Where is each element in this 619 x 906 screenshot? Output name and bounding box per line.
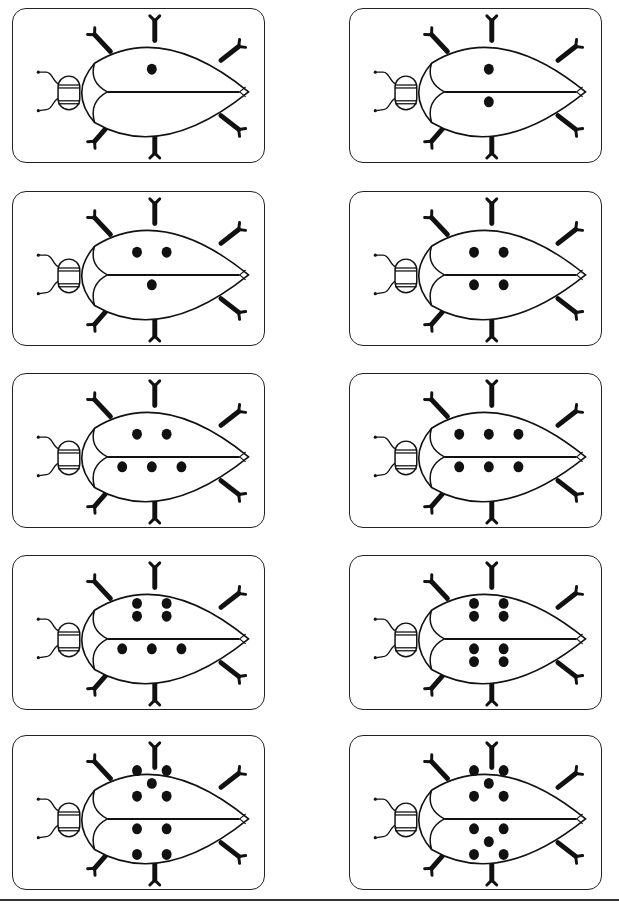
spot <box>162 429 172 440</box>
spot <box>484 778 494 789</box>
ladybug-icon <box>13 556 264 709</box>
spot <box>484 836 494 847</box>
bottom-divider <box>0 899 619 901</box>
ladybug-card-3 <box>12 191 265 346</box>
ladybug-icon <box>350 556 601 709</box>
spot <box>469 598 479 609</box>
spot <box>162 765 172 776</box>
spot <box>499 598 509 609</box>
spot <box>469 849 479 860</box>
spot <box>499 247 509 258</box>
spot <box>147 643 157 654</box>
spot <box>469 791 479 802</box>
ladybug-icon <box>350 9 601 162</box>
ladybug-icon <box>13 9 264 162</box>
spot <box>132 611 142 622</box>
ladybug-card-8 <box>349 555 602 710</box>
spot <box>162 247 172 258</box>
spot <box>454 461 464 472</box>
spot <box>162 849 172 860</box>
spot <box>514 429 524 440</box>
spot <box>499 611 509 622</box>
ladybug-card-5 <box>12 373 265 528</box>
spot <box>147 461 157 472</box>
ladybug-icon <box>350 192 601 345</box>
spot <box>499 656 509 667</box>
spot <box>147 64 157 75</box>
spot <box>162 791 172 802</box>
ladybug-icon <box>350 736 601 889</box>
spot <box>162 823 172 834</box>
ladybug-icon <box>13 736 264 889</box>
ladybug-icon <box>350 374 601 527</box>
spot <box>484 429 494 440</box>
spot <box>132 247 142 258</box>
spot <box>162 611 172 622</box>
ladybug-card-1 <box>12 8 265 163</box>
ladybug-card-9 <box>12 735 265 890</box>
spot <box>147 279 157 290</box>
spot <box>469 279 479 290</box>
spot <box>132 598 142 609</box>
spot <box>147 778 157 789</box>
spot <box>132 823 142 834</box>
ladybug-card-4 <box>349 191 602 346</box>
spot <box>469 765 479 776</box>
spot <box>177 461 187 472</box>
spot <box>177 643 187 654</box>
ladybug-icon <box>13 192 264 345</box>
spot <box>132 765 142 776</box>
spot <box>132 429 142 440</box>
spot <box>499 849 509 860</box>
spot <box>484 461 494 472</box>
ladybug-card-6 <box>349 373 602 528</box>
spot <box>514 461 524 472</box>
spot <box>469 823 479 834</box>
spot <box>484 64 494 75</box>
spot <box>162 598 172 609</box>
spot <box>132 791 142 802</box>
spot <box>499 765 509 776</box>
spot <box>469 611 479 622</box>
spot <box>499 279 509 290</box>
spot <box>469 247 479 258</box>
spot <box>132 849 142 860</box>
ladybug-card-10 <box>349 735 602 890</box>
spot <box>484 96 494 107</box>
spot <box>469 656 479 667</box>
spot <box>117 461 127 472</box>
spot <box>117 643 127 654</box>
spot <box>454 429 464 440</box>
spot <box>469 643 479 654</box>
ladybug-card-2 <box>349 8 602 163</box>
spot <box>499 791 509 802</box>
spot <box>499 643 509 654</box>
ladybug-card-7 <box>12 555 265 710</box>
spot <box>499 823 509 834</box>
ladybug-icon <box>13 374 264 527</box>
